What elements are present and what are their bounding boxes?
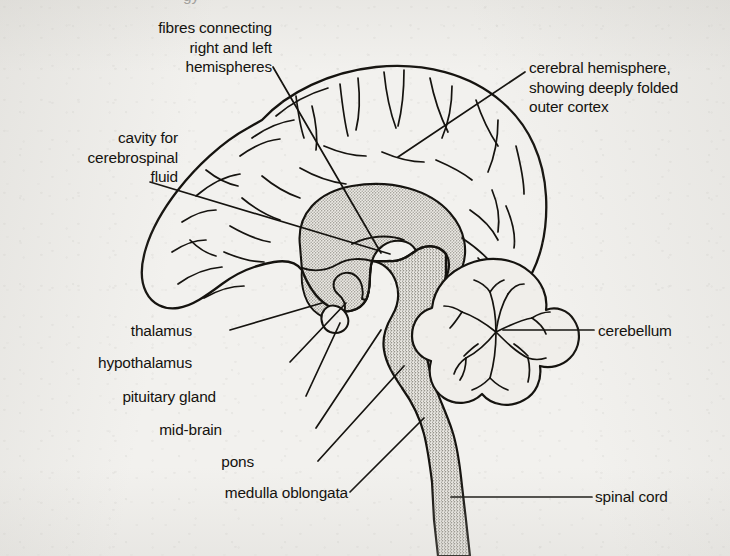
label-medulla-oblongata: medulla oblongata	[140, 483, 348, 503]
leader-pituitary-gland	[306, 323, 340, 396]
leader-mid-brain	[316, 330, 381, 428]
label-cerebral-hemisphere: cerebral hemisphere, showing deeply fold…	[529, 58, 729, 117]
label-hypothalamus: hypothalamus	[40, 353, 192, 373]
leader-thalamus	[230, 303, 322, 330]
label-pituitary-gland: pituitary gland	[48, 387, 216, 407]
label-pons: pons	[190, 452, 254, 472]
label-fibres-connecting-hemispheres: fibres connecting right and left hemisph…	[22, 18, 272, 77]
leader-pons	[318, 366, 404, 461]
brain-diagram-figure: gy fibres connecting right and left hemi…	[0, 0, 730, 556]
label-mid-brain: mid-brain	[98, 420, 222, 440]
label-spinal-cord: spinal cord	[595, 487, 725, 507]
leader-cerebral-hemisphere	[398, 72, 525, 157]
clipped-text-above: gy	[183, 0, 199, 5]
label-cerebellum: cerebellum	[598, 321, 728, 341]
leader-medulla-oblongata	[350, 418, 424, 492]
label-cavity-cerebrospinal-fluid: cavity for cerebrospinal fluid	[6, 128, 178, 187]
label-thalamus: thalamus	[60, 321, 192, 341]
